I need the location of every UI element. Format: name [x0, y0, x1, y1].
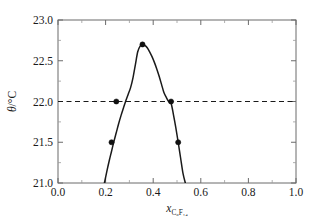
x-tick-label: 0.4	[146, 186, 161, 198]
y-tick-label: 21.5	[33, 136, 53, 148]
x-tick-label: 0.6	[194, 186, 209, 198]
y-tick-label: 21.0	[33, 177, 53, 189]
phase-boundary-curve	[104, 44, 185, 183]
y-tick-label: 23.0	[33, 14, 53, 26]
y-tick-label: 22.5	[33, 55, 53, 67]
data-point-marker	[140, 42, 145, 47]
x-tick-label: 0.8	[241, 186, 256, 198]
data-point-marker	[114, 99, 119, 104]
x-axis-title: xC₆F₁₄	[165, 202, 188, 217]
plot-canvas: 0.00.20.40.60.81.021.021.522.022.523.0xC…	[0, 0, 310, 222]
y-tick-label: 22.0	[33, 96, 53, 108]
y-axis-title: θ/°C	[6, 91, 18, 112]
chart-figure: 0.00.20.40.60.81.021.021.522.022.523.0xC…	[0, 0, 310, 222]
data-point-marker	[176, 140, 181, 145]
x-tick-label: 0.2	[98, 186, 113, 198]
data-point-marker	[168, 99, 173, 104]
x-tick-label: 1.0	[289, 186, 304, 198]
x-tick-label: 0.0	[51, 186, 66, 198]
data-point-marker	[109, 140, 114, 145]
